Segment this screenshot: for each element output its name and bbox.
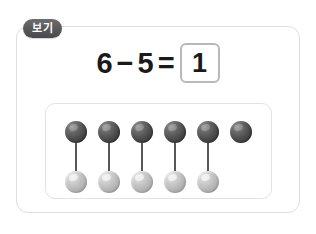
worksheet-canvas: 보기 6 − 5 = 1 bbox=[0, 0, 316, 234]
dark-bead[interactable] bbox=[164, 121, 186, 143]
equation-row: 6 − 5 = 1 bbox=[16, 38, 300, 88]
example-badge-label: 보기 bbox=[32, 23, 53, 34]
bead-column bbox=[60, 104, 93, 200]
bead-connector-line bbox=[207, 143, 209, 171]
equals-sign-icon: = bbox=[158, 49, 175, 78]
dark-bead[interactable] bbox=[131, 121, 153, 143]
bead-columns bbox=[46, 104, 271, 198]
example-badge: 보기 bbox=[23, 19, 62, 38]
bead-column bbox=[225, 104, 258, 200]
light-bead[interactable] bbox=[164, 171, 186, 193]
bead-connector-line bbox=[108, 143, 110, 171]
manipulatives-panel bbox=[45, 103, 272, 199]
bead-connector-line bbox=[75, 143, 77, 171]
dark-bead[interactable] bbox=[197, 121, 219, 143]
bead-column bbox=[159, 104, 192, 200]
answer-input-box[interactable]: 1 bbox=[180, 43, 220, 83]
bead-column bbox=[192, 104, 225, 200]
bead-connector-line bbox=[174, 143, 176, 171]
bead-column bbox=[126, 104, 159, 200]
equation-left-operand: 6 bbox=[96, 49, 112, 78]
equation-right-operand: 5 bbox=[138, 49, 154, 78]
dark-bead[interactable] bbox=[65, 121, 87, 143]
bead-column bbox=[93, 104, 126, 200]
dark-bead[interactable] bbox=[98, 121, 120, 143]
dark-bead[interactable] bbox=[230, 121, 252, 143]
light-bead[interactable] bbox=[65, 171, 87, 193]
light-bead[interactable] bbox=[197, 171, 219, 193]
bead-connector-line bbox=[141, 143, 143, 171]
answer-value: 1 bbox=[192, 50, 207, 77]
minus-operator-icon: − bbox=[117, 49, 134, 78]
light-bead[interactable] bbox=[131, 171, 153, 193]
light-bead[interactable] bbox=[98, 171, 120, 193]
